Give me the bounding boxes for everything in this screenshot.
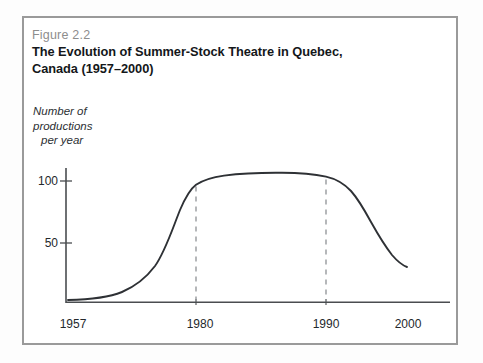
- x-tick-label-2000: 2000: [395, 317, 422, 331]
- x-tick-label-1990: 1990: [313, 317, 340, 331]
- x-tick-label-1957: 1957: [60, 317, 87, 331]
- figure-container: Figure 2.2 The Evolution of Summer-Stock…: [0, 0, 483, 363]
- y-tick-label-50: 50: [32, 236, 58, 250]
- y-axis-label-line-3: per year: [33, 133, 92, 148]
- y-axis-label-line-1: Number of: [33, 104, 92, 119]
- figure-title-line-1: The Evolution of Summer-Stock Theatre in…: [32, 44, 342, 61]
- y-tick-label-100: 100: [32, 174, 58, 188]
- y-axis-label-line-2: productions: [33, 119, 92, 134]
- y-axis-label: Number of productions per year: [33, 104, 92, 148]
- figure-title-line-2: Canada (1957–2000): [32, 61, 342, 78]
- figure-number-label: Figure 2.2: [32, 28, 90, 42]
- x-tick-label-1980: 1980: [187, 317, 214, 331]
- page-title: The Evolution of Summer-Stock Theatre in…: [32, 44, 342, 77]
